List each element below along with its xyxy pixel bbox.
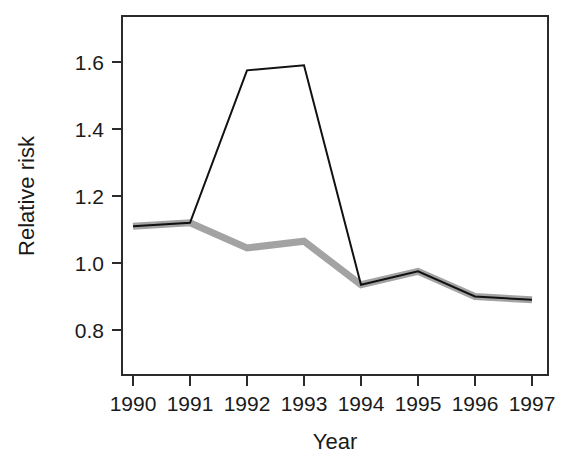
x-axis-title: Year: [313, 429, 357, 454]
x-tick-label-2: 1992: [224, 392, 271, 415]
x-tick-label-4: 1994: [338, 392, 385, 415]
x-tick-label-3: 1993: [281, 392, 328, 415]
y-tick-label-1: 1.0: [75, 252, 104, 275]
y-axis-title: Relative risk: [14, 135, 39, 256]
y-tick-label-2: 1.2: [75, 185, 104, 208]
y-tick-label-3: 1.4: [75, 118, 105, 141]
x-tick-label-6: 1996: [452, 392, 499, 415]
y-tick-label-4: 1.6: [75, 51, 104, 74]
x-tick-label-0: 1990: [110, 392, 157, 415]
x-tick-label-5: 1995: [395, 392, 442, 415]
chart-figure: 0.8 1.0 1.2 1.4 1.6 1990 1991 1992 1993 …: [0, 0, 587, 466]
x-tick-label-1: 1991: [167, 392, 214, 415]
relative-risk-line-chart: 0.8 1.0 1.2 1.4 1.6 1990 1991 1992 1993 …: [0, 0, 587, 466]
x-tick-label-7: 1997: [509, 392, 556, 415]
y-tick-label-0: 0.8: [75, 319, 104, 342]
